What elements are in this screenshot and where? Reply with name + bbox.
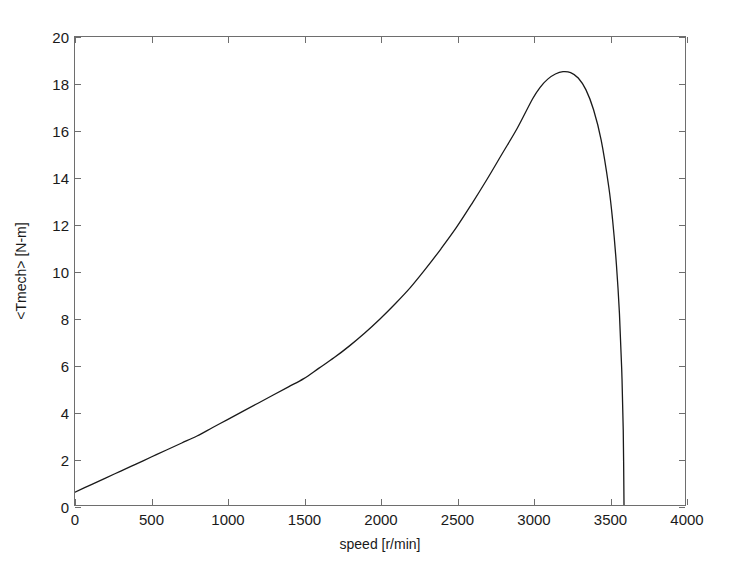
x-tick-mark xyxy=(152,499,153,505)
x-tick-mark-top xyxy=(228,37,229,43)
x-tick-label: 2000 xyxy=(364,512,397,527)
y-tick-mark xyxy=(75,460,81,461)
y-tick-mark-right xyxy=(679,178,685,179)
x-tick-mark xyxy=(534,499,535,505)
y-tick-mark xyxy=(75,319,81,320)
x-tick-mark-top xyxy=(687,37,688,43)
y-tick-mark-right xyxy=(679,413,685,414)
y-axis-title-text: <Tmech> [N-m] xyxy=(13,222,29,319)
x-axis-title: speed [r/min] xyxy=(74,536,686,552)
y-tick-mark-right xyxy=(679,272,685,273)
x-tick-mark xyxy=(458,499,459,505)
y-tick-mark xyxy=(75,178,81,179)
x-tick-mark-top xyxy=(458,37,459,43)
y-tick-mark xyxy=(75,225,81,226)
y-tick-mark-right xyxy=(679,131,685,132)
y-tick-mark xyxy=(75,366,81,367)
x-tick-label: 1000 xyxy=(211,512,244,527)
y-tick-label: 4 xyxy=(61,406,69,421)
y-tick-label: 2 xyxy=(61,453,69,468)
x-tick-mark xyxy=(611,499,612,505)
y-tick-label: 0 xyxy=(61,500,69,515)
y-tick-label: 10 xyxy=(52,265,69,280)
y-tick-label: 12 xyxy=(52,218,69,233)
x-tick-mark-top xyxy=(534,37,535,43)
y-tick-mark-right xyxy=(679,507,685,508)
y-tick-mark-right xyxy=(679,37,685,38)
y-tick-mark-right xyxy=(679,366,685,367)
x-tick-mark-top xyxy=(305,37,306,43)
plot-area: 02468101214161820 0500100015002000250030… xyxy=(74,36,686,506)
x-tick-mark xyxy=(381,499,382,505)
figure-canvas: 02468101214161820 0500100015002000250030… xyxy=(0,0,735,576)
x-tick-label: 0 xyxy=(71,512,79,527)
x-tick-mark-top xyxy=(75,37,76,43)
x-tick-label: 500 xyxy=(139,512,164,527)
x-tick-mark xyxy=(687,499,688,505)
x-tick-mark-top xyxy=(611,37,612,43)
y-tick-label: 8 xyxy=(61,312,69,327)
y-tick-label: 18 xyxy=(52,77,69,92)
y-tick-label: 20 xyxy=(52,30,69,45)
y-tick-label: 16 xyxy=(52,124,69,139)
y-tick-label: 14 xyxy=(52,171,69,186)
x-tick-label: 2500 xyxy=(441,512,474,527)
x-tick-mark xyxy=(305,499,306,505)
y-tick-mark xyxy=(75,131,81,132)
x-tick-label: 3500 xyxy=(594,512,627,527)
y-tick-mark-right xyxy=(679,460,685,461)
y-tick-mark xyxy=(75,507,81,508)
y-tick-mark xyxy=(75,413,81,414)
x-tick-label: 4000 xyxy=(670,512,703,527)
x-tick-mark-top xyxy=(152,37,153,43)
x-tick-label: 3000 xyxy=(517,512,550,527)
y-tick-mark-right xyxy=(679,225,685,226)
y-tick-mark-right xyxy=(679,319,685,320)
torque-speed-curve xyxy=(75,37,685,505)
y-axis-title: <Tmech> [N-m] xyxy=(10,36,32,506)
y-tick-label: 6 xyxy=(61,359,69,374)
x-tick-label: 1500 xyxy=(288,512,321,527)
x-tick-mark xyxy=(228,499,229,505)
x-tick-mark xyxy=(75,499,76,505)
x-tick-mark-top xyxy=(381,37,382,43)
y-tick-mark xyxy=(75,84,81,85)
y-tick-mark xyxy=(75,272,81,273)
y-tick-mark-right xyxy=(679,84,685,85)
